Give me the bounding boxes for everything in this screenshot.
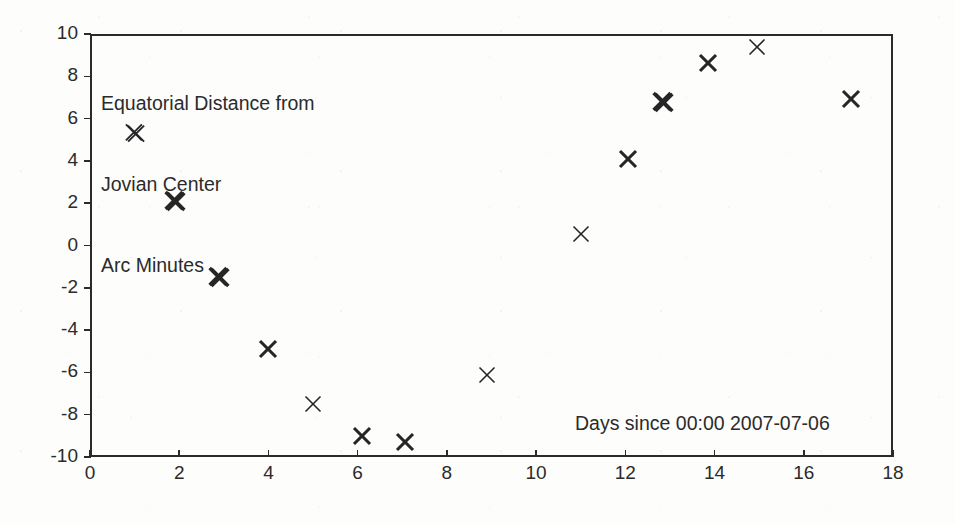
x-tick-2 [178,450,180,457]
y-tick-label-10: 10 [0,22,78,44]
y-tick--4 [84,329,91,331]
y-tick-label--8: -8 [0,403,78,425]
y-tick-label--2: -2 [0,276,78,298]
y-tick-10 [84,33,91,35]
x-tick-label-4: 4 [238,462,298,484]
y-tick-2 [84,202,91,204]
scatter-chart-figure: 024681012141618 -10-8-6-4-20246810 Equat… [0,0,955,525]
y-tick--8 [84,414,91,416]
x-tick-4 [268,450,270,457]
x-tick-10 [535,450,537,457]
y-tick--10 [84,456,91,458]
y-tick--6 [84,372,91,374]
x-tick-8 [446,450,448,457]
y-tick-0 [84,245,91,247]
y-tick-label--4: -4 [0,318,78,340]
y-tick--2 [84,287,91,289]
y-tick-label-6: 6 [0,107,78,129]
y-tick-6 [84,118,91,120]
x-tick-16 [803,450,805,457]
y-tick-label-2: 2 [0,191,78,213]
y-axis-title-line-3: Arc Minutes [101,252,315,279]
x-tick-12 [625,450,627,457]
y-tick-label-0: 0 [0,234,78,256]
y-tick-8 [84,76,91,78]
y-tick-4 [84,160,91,162]
x-tick-label-14: 14 [685,462,745,484]
x-tick-6 [357,450,359,457]
y-tick-label-8: 8 [0,64,78,86]
x-tick-label-2: 2 [149,462,209,484]
x-tick-label-18: 18 [863,462,923,484]
x-tick-label-12: 12 [595,462,655,484]
y-axis-title-annotation: Equatorial Distance from Jovian Center A… [101,36,315,333]
y-axis-title-line-2: Jovian Center [101,171,315,198]
x-tick-label-10: 10 [506,462,566,484]
x-tick-label-8: 8 [417,462,477,484]
y-axis-title-line-1: Equatorial Distance from [101,90,315,117]
x-axis-title: Days since 00:00 2007-07-06 [575,412,830,435]
x-tick-18 [892,450,894,457]
x-tick-label-6: 6 [328,462,388,484]
y-tick-label--6: -6 [0,360,78,382]
y-tick-label--10: -10 [0,445,78,467]
x-tick-label-16: 16 [774,462,834,484]
x-tick-14 [714,450,716,457]
y-tick-label-4: 4 [0,149,78,171]
